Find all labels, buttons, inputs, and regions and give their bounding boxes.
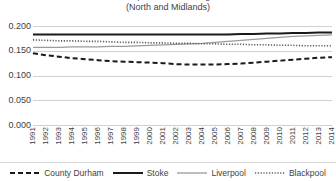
- gridline: [33, 26, 332, 27]
- x-tick-label: 1999: [133, 127, 141, 145]
- x-axis: 1991199219931994199519961997199819992000…: [33, 127, 332, 161]
- y-tick-label: 0.200: [1, 22, 31, 31]
- x-tick-label: 2011: [289, 127, 297, 144]
- series-line-blackpool: [33, 40, 332, 46]
- x-tick-label: 2010: [276, 127, 284, 145]
- x-tick-label: 1995: [81, 127, 89, 145]
- legend-swatch-icon: [10, 169, 40, 177]
- x-tick-label: 1993: [55, 127, 63, 145]
- series-line-stoke: [33, 32, 332, 34]
- series-line-county-durham: [33, 53, 332, 64]
- legend-label: County Durham: [44, 168, 104, 178]
- legend-swatch-icon: [113, 169, 143, 177]
- x-tick-label: 2009: [263, 127, 271, 145]
- relative-deprivation-line-chart: Relative Deprivation: Ratio Ages 16-24 (…: [0, 0, 336, 181]
- legend-item-liverpool[interactable]: Liverpool: [177, 168, 246, 178]
- gridline: [33, 100, 332, 101]
- chart-legend: County DurhamStokeLiverpoolBlackpool: [0, 162, 336, 181]
- legend-swatch-icon: [255, 169, 285, 177]
- x-tick-label: 2003: [185, 127, 193, 145]
- x-tick-label: 1996: [94, 127, 102, 145]
- legend-swatch-icon: [177, 169, 207, 177]
- x-tick-label: 2000: [146, 127, 154, 145]
- x-tick-label: 2002: [172, 127, 180, 145]
- legend-item-stoke[interactable]: Stoke: [113, 168, 169, 178]
- x-tick-label: 2004: [198, 127, 206, 145]
- y-axis: 0.0000.0500.1000.1500.200: [0, 26, 31, 125]
- chart-title: Relative Deprivation: Ratio Ages 16-24 (…: [0, 0, 336, 13]
- x-tick-label: 2006: [224, 127, 232, 145]
- x-tick-label: 1991: [29, 127, 37, 145]
- y-tick-label: 0.000: [1, 121, 31, 130]
- x-tick-label: 2005: [211, 127, 219, 145]
- legend-label: Liverpool: [211, 168, 246, 178]
- gridline: [33, 125, 332, 126]
- x-tick-label: 1994: [68, 127, 76, 145]
- gridline: [33, 76, 332, 77]
- y-tick-label: 0.050: [1, 96, 31, 105]
- x-tick-label: 2012: [302, 127, 310, 145]
- chart-subtitle: (North and Midlands): [0, 2, 336, 13]
- y-tick-label: 0.100: [1, 71, 31, 80]
- legend-item-county-durham[interactable]: County Durham: [10, 168, 104, 178]
- y-tick-label: 0.150: [1, 46, 31, 55]
- x-tick-label: 1998: [120, 127, 128, 145]
- gridline: [33, 51, 332, 52]
- x-tick-label: 2008: [250, 127, 258, 145]
- x-tick-label: 2001: [159, 127, 167, 145]
- legend-item-blackpool[interactable]: Blackpool: [255, 168, 326, 178]
- x-tick-label: 1997: [107, 127, 115, 145]
- legend-label: Stoke: [147, 168, 169, 178]
- plot-area: [33, 26, 332, 125]
- x-tick-label: 2013: [315, 127, 323, 145]
- x-tick-label: 2014: [328, 127, 336, 145]
- legend-label: Blackpool: [289, 168, 326, 178]
- x-tick-label: 2007: [237, 127, 245, 145]
- x-tick-label: 1992: [42, 127, 50, 145]
